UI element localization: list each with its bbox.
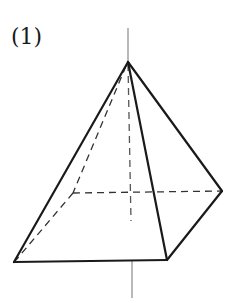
edge-base-front	[14, 260, 167, 262]
hidden-edge-apex-backleft	[73, 66, 126, 193]
hidden-edge-backleft-backright	[73, 191, 222, 193]
edge-apex-frontright	[128, 62, 167, 260]
edge-apex-backright	[128, 62, 222, 191]
hidden-edge-backleft-frontleft	[16, 193, 73, 260]
pyramid-figure: (1)	[0, 0, 238, 303]
edge-base-right	[167, 191, 222, 260]
edge-apex-frontleft	[14, 62, 128, 262]
axis-hidden-line	[128, 64, 131, 221]
figure-label: (1)	[11, 24, 42, 49]
